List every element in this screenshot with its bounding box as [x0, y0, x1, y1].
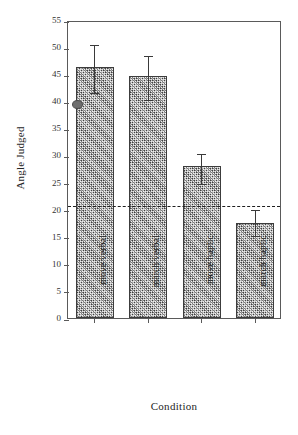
- error-bar-cap-top: [197, 154, 206, 155]
- reference-dot-marker: [72, 100, 83, 109]
- y-tick-mark: [64, 265, 69, 266]
- y-tick-label: 5: [35, 286, 61, 296]
- error-bar: [94, 45, 95, 94]
- y-tick-label: 50: [35, 42, 61, 52]
- x-tick-label: move haptic: [205, 235, 215, 325]
- error-bar-cap-bottom: [197, 184, 206, 185]
- y-tick-mark: [64, 22, 69, 23]
- reference-line: [68, 206, 280, 207]
- y-tick-mark: [64, 157, 69, 158]
- x-tick-label: move verbal: [98, 235, 108, 325]
- y-tick-label: 0: [35, 313, 61, 323]
- y-tick-mark: [64, 184, 69, 185]
- bar: [183, 166, 221, 318]
- error-bar-cap-top: [90, 45, 99, 46]
- y-tick-mark: [64, 49, 69, 50]
- x-tick-mark: [94, 318, 95, 323]
- y-tick-label: 55: [35, 15, 61, 25]
- x-tick-label: march haptic: [258, 235, 268, 325]
- y-tick-mark: [64, 211, 69, 212]
- y-tick-label: 45: [35, 69, 61, 79]
- y-tick-label: 25: [35, 178, 61, 188]
- y-tick-mark: [64, 320, 69, 321]
- x-axis-title: Condition: [67, 400, 281, 412]
- y-tick-label: 10: [35, 259, 61, 269]
- x-tick-mark: [148, 318, 149, 323]
- error-bar-cap-top: [251, 210, 260, 211]
- error-bar: [255, 210, 256, 237]
- error-bar: [201, 154, 202, 185]
- error-bar-cap-bottom: [90, 93, 99, 94]
- y-tick-mark: [64, 238, 69, 239]
- y-tick-mark: [64, 292, 69, 293]
- bar-chart-figure: Angle Judged 0510152025303540455055 Cond…: [0, 0, 298, 435]
- y-tick-mark: [64, 76, 69, 77]
- y-tick-mark: [64, 103, 69, 104]
- y-tick-label: 15: [35, 232, 61, 242]
- error-bar-cap-top: [144, 56, 153, 57]
- y-tick-mark: [64, 130, 69, 131]
- error-bar: [148, 56, 149, 101]
- y-tick-label: 35: [35, 123, 61, 133]
- y-tick-label: 20: [35, 205, 61, 215]
- x-tick-mark: [255, 318, 256, 323]
- bar: [129, 76, 167, 318]
- y-axis-title: Angle Judged: [14, 98, 26, 218]
- error-bar-cap-bottom: [144, 100, 153, 101]
- x-tick-mark: [201, 318, 202, 323]
- y-tick-label: 40: [35, 96, 61, 106]
- x-tick-label: march verbal: [151, 235, 161, 325]
- y-tick-label: 30: [35, 150, 61, 160]
